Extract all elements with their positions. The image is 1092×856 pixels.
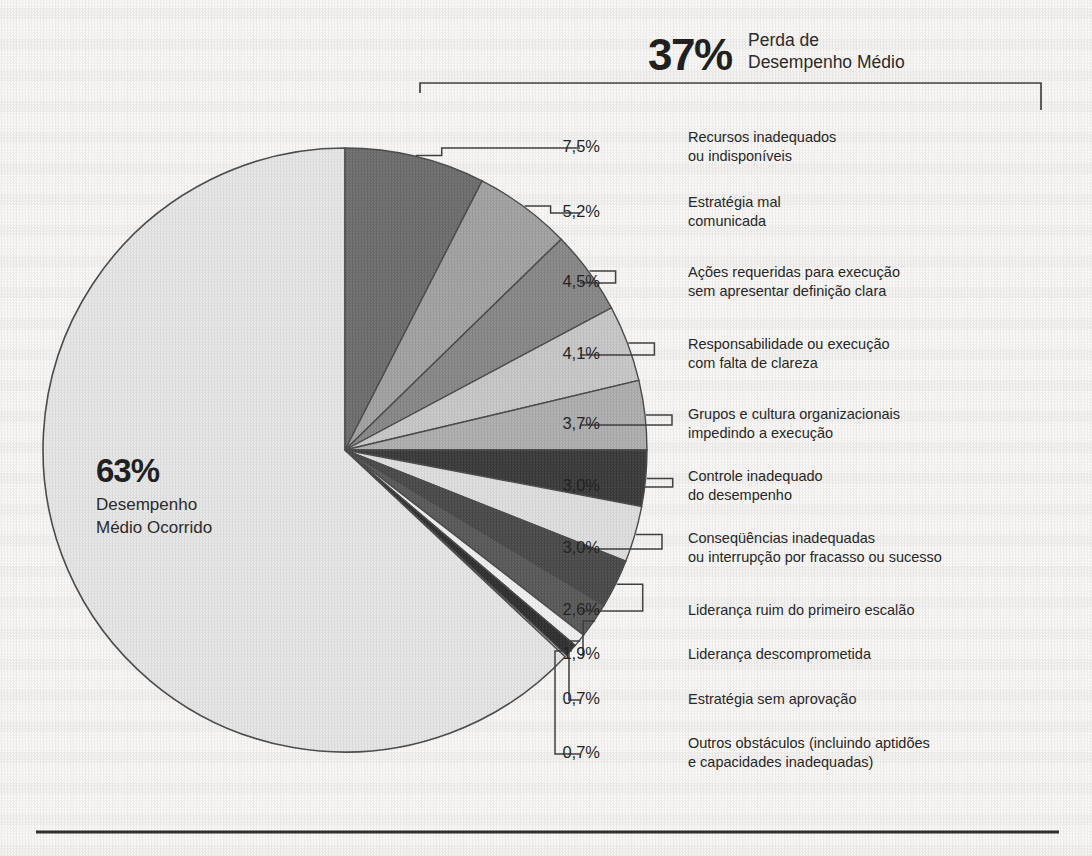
legend-label: Recursos inadequados ou indisponíveis [688, 128, 836, 165]
legend-label: Liderança descomprometida [688, 645, 871, 664]
legend-percent: 3,0% [536, 476, 600, 495]
legend-percent: 0,7% [536, 689, 600, 708]
legend-label: Responsabilidade ou execução com falta d… [688, 335, 890, 372]
legend-label: Estratégia mal comunicada [688, 193, 781, 230]
legend-percent: 3,7% [536, 414, 600, 433]
legend-percent: 7,5% [536, 137, 600, 156]
legend-percent: 2,6% [536, 600, 600, 619]
legend-label: Ações requeridas para execução sem apres… [688, 263, 900, 300]
legend-label: Controle inadequado do desempenho [688, 467, 823, 504]
legend-percent: 4,1% [536, 344, 600, 363]
legend-label: Estratégia sem aprovação [688, 690, 856, 709]
header-percent: 37% [648, 30, 732, 80]
center-label-line2: Médio Ocorrido [96, 517, 212, 539]
legend-label: Grupos e cultura organizacionais impedin… [688, 405, 900, 442]
legend-label: Outros obstáculos (incluindo aptidões e … [688, 734, 930, 771]
legend-percent: 3,0% [536, 538, 600, 557]
legend-percent: 0,7% [536, 743, 600, 762]
legend-percent: 1,9% [536, 644, 600, 663]
header-label-line1: Perda de [748, 30, 819, 52]
center-percent: 63% [96, 452, 159, 490]
header-bracket [420, 83, 1041, 110]
center-label-line1: Desempenho [96, 494, 197, 516]
legend-percent: 5,2% [536, 202, 600, 221]
legend-label: Liderança ruim do primeiro escalão [688, 601, 914, 620]
legend-label: Conseqüências inadequadas ou interrupção… [688, 529, 942, 566]
legend-percent: 4,5% [536, 272, 600, 291]
header-label-line2: Desempenho Médio [748, 52, 905, 74]
